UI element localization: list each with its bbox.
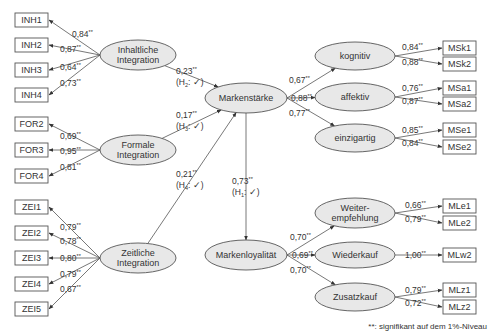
svg-text:Zusatzkauf: Zusatzkauf <box>333 292 378 302</box>
hypothesis-label: (H3: ✓) <box>176 121 204 132</box>
construct-wie: Wiederkauf <box>315 242 395 268</box>
path-coefficient: 0,17** <box>176 110 198 120</box>
loading-arrow <box>49 55 100 95</box>
construct-ms: Markenstärke <box>205 83 287 113</box>
construct-wei: Weiter-empfehlung <box>315 198 395 228</box>
loading-value: 0,69** <box>60 131 82 141</box>
indicator-mlw2: MLw2 <box>443 248 476 262</box>
svg-text:Markenstärke: Markenstärke <box>219 93 274 103</box>
indicator-for3: FOR3 <box>15 143 48 157</box>
sem-diagram: INH1INH2INH3INH4FOR2FOR3FOR4ZEI1ZEI2ZEI3… <box>0 0 491 335</box>
svg-text:MLz1: MLz1 <box>448 285 470 295</box>
indicator-mle2: MLe2 <box>443 216 476 230</box>
svg-text:Inhaltliche: Inhaltliche <box>118 45 159 55</box>
construct-kog: kognitiv <box>315 42 395 70</box>
loading-value: 0,88** <box>402 57 424 67</box>
svg-text:Zeitliche: Zeitliche <box>121 248 155 258</box>
svg-text:MLe2: MLe2 <box>448 218 471 228</box>
indicator-mle1: MLe1 <box>443 199 476 213</box>
indicator-inh4: INH4 <box>15 88 48 102</box>
loading-value: 0,79** <box>405 285 427 295</box>
indicator-for2: FOR2 <box>15 117 48 131</box>
loading-value: 0,80** <box>60 253 82 263</box>
svg-text:INH3: INH3 <box>21 65 42 75</box>
svg-text:MSk2: MSk2 <box>448 59 471 69</box>
indicator-inh1: INH1 <box>15 13 48 27</box>
indicator-inh2: INH2 <box>15 38 48 52</box>
indicator-msk2: MSk2 <box>443 57 476 71</box>
dimension-coefficient: 0,67** <box>289 75 311 85</box>
construct-zus: Zusatzkauf <box>315 283 395 311</box>
svg-text:ZEI2: ZEI2 <box>22 228 41 238</box>
svg-text:ZEI1: ZEI1 <box>22 202 41 212</box>
construct-zei: ZeitlicheIntegration <box>100 243 176 273</box>
dimension-coefficient: 0,70** <box>290 265 312 275</box>
dimension-coefficient: 0,69** <box>292 250 314 260</box>
svg-text:MSe2: MSe2 <box>448 142 472 152</box>
hypothesis-label: (H4: ✓) <box>176 180 204 191</box>
path-coefficient: 0,23** <box>176 66 198 76</box>
loading-value: 0,67** <box>60 284 82 294</box>
indicator-msa1: MSa1 <box>443 81 476 95</box>
svg-text:Formale: Formale <box>121 140 154 150</box>
loading-value: 0,87** <box>60 44 82 54</box>
loading-value: 0,79** <box>60 269 82 279</box>
indicator-inh3: INH3 <box>15 63 48 77</box>
svg-text:ZEI4: ZEI4 <box>22 279 41 289</box>
dimension-coefficient: 0,88** <box>291 93 313 103</box>
loading-value: 1,00** <box>405 250 427 260</box>
construct-ml: Markenloyalität <box>205 240 287 270</box>
indicator-zei1: ZEI1 <box>15 200 48 214</box>
indicator-zei3: ZEI3 <box>15 251 48 265</box>
svg-text:kognitiv: kognitiv <box>340 51 371 61</box>
svg-text:affektiv: affektiv <box>341 92 370 102</box>
svg-text:INH2: INH2 <box>21 40 42 50</box>
svg-text:INH4: INH4 <box>21 90 42 100</box>
construct-aff: affektiv <box>315 83 395 111</box>
svg-text:MSa1: MSa1 <box>448 83 472 93</box>
loading-value: 0,81** <box>60 162 82 172</box>
loading-value: 0,84** <box>402 138 424 148</box>
loading-value: 0,72** <box>405 298 427 308</box>
indicator-mse2: MSe2 <box>443 140 476 154</box>
indicator-msa2: MSa2 <box>443 97 476 111</box>
loading-value: 0,79** <box>405 214 427 224</box>
indicator-zei4: ZEI4 <box>15 277 48 291</box>
svg-text:empfehlung: empfehlung <box>331 213 378 223</box>
svg-text:FOR2: FOR2 <box>19 119 43 129</box>
indicator-for4: FOR4 <box>15 169 48 183</box>
svg-text:MSa2: MSa2 <box>448 99 472 109</box>
construct-inh: InhaltlicheIntegration <box>100 40 176 70</box>
loading-arrow <box>49 207 100 258</box>
dimension-coefficient: 0,77** <box>289 108 311 118</box>
indicator-mlz1: MLz1 <box>443 283 476 297</box>
indicator-zei2: ZEI2 <box>15 226 48 240</box>
loading-value: 0,84** <box>402 42 424 52</box>
svg-text:einzigartig: einzigartig <box>334 133 375 143</box>
svg-text:Wiederkauf: Wiederkauf <box>332 250 378 260</box>
indicator-mse1: MSe1 <box>443 123 476 137</box>
hypothesis-label: (H1: ✓) <box>232 187 260 198</box>
loading-value: 0,87** <box>402 96 424 106</box>
svg-text:MSe1: MSe1 <box>448 125 472 135</box>
hypothesis-label: (H2: ✓) <box>176 77 204 88</box>
path-coefficient: 0,21** <box>176 169 198 179</box>
svg-text:FOR4: FOR4 <box>19 171 43 181</box>
significance-footnote: **: signifikant auf dem 1%-Niveau <box>368 322 487 331</box>
svg-text:Markenloyalität: Markenloyalität <box>216 250 277 260</box>
loading-value: 0,84** <box>72 29 94 39</box>
svg-text:Integration: Integration <box>117 55 160 65</box>
dimension-coefficient: 0,70** <box>290 232 312 242</box>
loading-value: 0,95** <box>60 146 82 156</box>
indicator-msk1: MSk1 <box>443 41 476 55</box>
svg-text:ZEI3: ZEI3 <box>22 253 41 263</box>
svg-text:INH1: INH1 <box>21 15 42 25</box>
svg-text:Integration: Integration <box>117 258 160 268</box>
loading-value: 0,76** <box>402 83 424 93</box>
indicator-zei5: ZEI5 <box>15 302 48 316</box>
svg-text:MLe1: MLe1 <box>448 201 471 211</box>
svg-text:FOR3: FOR3 <box>19 145 43 155</box>
svg-text:MSk1: MSk1 <box>448 43 471 53</box>
loading-value: 0,79** <box>60 222 82 232</box>
path-coefficient: 0,73** <box>232 176 254 186</box>
